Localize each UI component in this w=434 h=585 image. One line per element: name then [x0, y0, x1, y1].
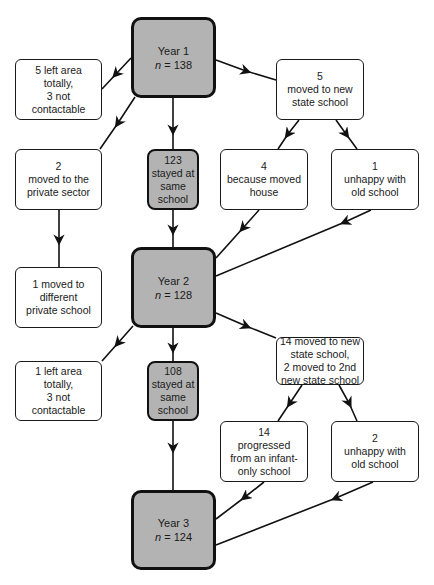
node-text-line: unhappy with: [344, 173, 406, 186]
node-text-line: 2 moved to 2nd: [284, 361, 356, 374]
edge-year1-left1: [102, 58, 131, 89]
node-text-line: different: [40, 291, 78, 304]
year3-count: n = 124: [155, 530, 192, 544]
node-text-line: totally,: [44, 378, 74, 391]
edge-movedhouse-year2: [216, 210, 259, 258]
edge-year2-left2: [102, 326, 133, 361]
node-text-line: private sector: [27, 186, 90, 199]
node-text-line: totally,: [44, 77, 74, 90]
new-state-school-year1-node: 5 moved to new state school: [276, 59, 364, 120]
year1-count: n = 138: [155, 58, 192, 72]
edge-newstate1-movedhouse: [278, 120, 299, 149]
unhappy-year1-node: 1 unhappy with old school: [331, 149, 419, 210]
edge-unhappy1-year2: [216, 210, 371, 276]
node-text-line: old school: [351, 186, 398, 199]
node-text-line: 3 not: [47, 391, 70, 404]
progressed-infant-school-node: 14 progressed from an infant- only schoo…: [220, 421, 308, 482]
node-text-line: house: [250, 186, 279, 199]
edge-newstate2-progressed: [278, 385, 302, 421]
node-text-line: stayed at: [152, 167, 195, 180]
year2-count: n = 128: [155, 288, 192, 302]
node-text-line: state school,: [291, 348, 350, 361]
node-text-line: 108: [164, 365, 182, 378]
node-text-line: old school: [351, 458, 398, 471]
year1-title: Year 1: [158, 44, 189, 58]
left-area-year2-node: 1 left area totally, 3 not contactable: [15, 361, 102, 421]
node-text-line: 5: [317, 70, 323, 83]
left-area-year1-node: 5 left area totally, 3 not contactable: [15, 59, 102, 120]
node-text-line: 14 moved to new: [280, 335, 360, 348]
node-text-line: 4: [261, 160, 267, 173]
node-text-line: because moved: [227, 173, 301, 186]
stayed-year2-node: 108 stayed at same school: [147, 361, 199, 421]
private-sector-node: 2 moved to the private sector: [15, 149, 102, 210]
node-text-line: 2: [372, 432, 378, 445]
new-state-school-year2-node: 14 moved to new state school, 2 moved to…: [276, 337, 364, 385]
node-text-line: 3 not: [47, 90, 70, 103]
year3-node: Year 3 n = 124: [131, 490, 216, 570]
edge-progressed-year3: [216, 482, 264, 519]
moved-house-node: 4 because moved house: [220, 149, 308, 210]
edge-year1-newstate1: [216, 60, 276, 80]
year2-title: Year 2: [158, 274, 189, 288]
edge-year2-newstate2: [216, 313, 276, 338]
edge-year1-private1: [100, 97, 135, 149]
year3-title: Year 3: [158, 516, 189, 530]
node-text-line: moved to new: [287, 83, 352, 96]
edge-newstate1-unhappy1: [336, 120, 357, 149]
school-movement-flowchart: Year 1 n = 138 5 left area totally, 3 no…: [0, 0, 434, 585]
node-text-line: school: [158, 193, 188, 206]
year2-node: Year 2 n = 128: [131, 247, 216, 328]
year1-node: Year 1 n = 138: [131, 17, 216, 98]
stayed-year1-node: 123 stayed at same school: [147, 149, 199, 210]
node-text-line: 123: [164, 154, 182, 167]
node-text-line: moved to the: [28, 173, 89, 186]
different-private-school-node: 1 moved to different private school: [15, 267, 102, 328]
node-text-line: unhappy with: [344, 445, 406, 458]
node-text-line: stayed at: [152, 378, 195, 391]
node-text-line: from an infant-: [230, 452, 298, 465]
node-text-line: only school: [238, 465, 291, 478]
node-text-line: progressed: [238, 439, 291, 452]
unhappy-year2-node: 2 unhappy with old school: [331, 421, 419, 482]
node-text-line: private school: [26, 304, 91, 317]
node-text-line: 5 left area: [35, 64, 82, 77]
node-text-line: 2: [56, 160, 62, 173]
node-text-line: same: [160, 391, 186, 404]
edge-newstate2-unhappy2: [339, 385, 357, 421]
node-text-line: 1: [372, 160, 378, 173]
node-text-line: 14: [258, 426, 270, 439]
node-text-line: same: [160, 180, 186, 193]
node-text-line: 1 moved to: [33, 278, 85, 291]
node-text-line: state school: [292, 96, 348, 109]
node-text-line: 1 left area: [35, 365, 82, 378]
edge-unhappy2-year3: [216, 482, 373, 545]
node-text-line: new state school: [281, 374, 359, 387]
node-text-line: contactable: [32, 404, 86, 417]
node-text-line: contactable: [32, 103, 86, 116]
node-text-line: school: [158, 404, 188, 417]
